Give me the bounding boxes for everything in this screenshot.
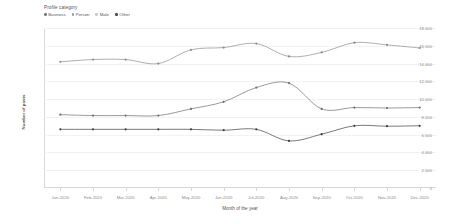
x-tick-mark bbox=[158, 188, 159, 191]
x-axis-title: Month of the year bbox=[44, 206, 436, 211]
data-point[interactable] bbox=[386, 44, 388, 46]
data-point[interactable] bbox=[353, 42, 355, 44]
legend-title: Profile category bbox=[44, 5, 130, 10]
data-point[interactable] bbox=[125, 58, 127, 60]
x-tick-label: Aug-2020 bbox=[280, 195, 298, 200]
legend-swatch-male bbox=[95, 13, 98, 16]
legend-swatch-other bbox=[115, 13, 118, 16]
x-tick-label: Nov-2020 bbox=[378, 195, 396, 200]
data-point[interactable] bbox=[125, 128, 127, 130]
legend-label-other: Other bbox=[119, 12, 130, 17]
x-tick-label: Sep-2020 bbox=[313, 195, 331, 200]
data-point[interactable] bbox=[59, 114, 61, 116]
legend-label-business: Business bbox=[48, 12, 65, 17]
data-point[interactable] bbox=[190, 128, 192, 130]
data-point[interactable] bbox=[386, 125, 388, 127]
data-point[interactable] bbox=[255, 128, 257, 130]
data-point[interactable] bbox=[190, 49, 192, 51]
data-point[interactable] bbox=[419, 125, 421, 127]
data-point[interactable] bbox=[223, 46, 225, 48]
x-tick-mark bbox=[60, 188, 61, 191]
data-point[interactable] bbox=[223, 101, 225, 103]
x-tick-mark bbox=[322, 188, 323, 191]
data-point[interactable] bbox=[59, 128, 61, 130]
legend-items: Business Person Male Other bbox=[44, 12, 130, 17]
x-tick-label: Jan-2020 bbox=[52, 195, 69, 200]
data-point[interactable] bbox=[353, 106, 355, 108]
x-tick-mark bbox=[126, 188, 127, 191]
legend-item-person[interactable]: Person bbox=[72, 12, 90, 17]
data-point[interactable] bbox=[321, 133, 323, 135]
data-point[interactable] bbox=[92, 128, 94, 130]
x-tick-label: Feb-2020 bbox=[84, 195, 102, 200]
data-point[interactable] bbox=[321, 108, 323, 110]
data-point[interactable] bbox=[288, 140, 290, 142]
legend-item-male[interactable]: Male bbox=[95, 12, 109, 17]
data-point[interactable] bbox=[321, 51, 323, 53]
data-point[interactable] bbox=[255, 42, 257, 44]
series-line-business bbox=[60, 82, 419, 116]
legend-label-male: Male bbox=[100, 12, 109, 17]
y-axis-title: Number of posts bbox=[21, 95, 26, 130]
legend-item-other[interactable]: Other bbox=[115, 12, 130, 17]
data-point[interactable] bbox=[223, 129, 225, 131]
series-line-person bbox=[60, 125, 419, 141]
data-point[interactable] bbox=[255, 86, 257, 88]
legend-item-business[interactable]: Business bbox=[44, 12, 66, 17]
x-tick-label: Dec-2020 bbox=[411, 195, 429, 200]
data-point[interactable] bbox=[157, 128, 159, 130]
legend-swatch-person bbox=[72, 13, 75, 16]
legend-label-person: Person bbox=[76, 12, 90, 17]
x-tick-label: Apr-2020 bbox=[150, 195, 167, 200]
x-tick-label: Oct-2020 bbox=[346, 195, 363, 200]
data-point[interactable] bbox=[419, 106, 421, 108]
x-tick-mark bbox=[420, 188, 421, 191]
plot-area: 18 00016 00014 00012 00010 0008 0006 000… bbox=[44, 28, 436, 188]
data-point[interactable] bbox=[190, 108, 192, 110]
data-point[interactable] bbox=[288, 55, 290, 57]
x-tick-mark bbox=[354, 188, 355, 191]
data-point[interactable] bbox=[288, 82, 290, 84]
x-tick-label: Jun-2020 bbox=[215, 195, 232, 200]
x-tick-mark bbox=[256, 188, 257, 191]
data-point[interactable] bbox=[157, 62, 159, 64]
chart-root: Profile category Business Person Male Ot… bbox=[0, 0, 474, 224]
data-point[interactable] bbox=[419, 47, 421, 49]
x-tick-mark bbox=[224, 188, 225, 191]
data-point[interactable] bbox=[59, 61, 61, 63]
series-lines bbox=[44, 28, 436, 188]
chart-legend: Profile category Business Person Male Ot… bbox=[44, 5, 130, 17]
data-point[interactable] bbox=[157, 114, 159, 116]
data-point[interactable] bbox=[125, 114, 127, 116]
x-tick-mark bbox=[289, 188, 290, 191]
x-tick-mark bbox=[191, 188, 192, 191]
x-tick-label: Jul-2020 bbox=[248, 195, 264, 200]
data-point[interactable] bbox=[353, 125, 355, 127]
x-tick-label: Mar-2020 bbox=[117, 195, 135, 200]
series-line-other bbox=[60, 42, 419, 64]
data-point[interactable] bbox=[92, 114, 94, 116]
x-tick-mark bbox=[93, 188, 94, 191]
x-tick-label: May-2020 bbox=[182, 195, 201, 200]
x-tick-mark bbox=[387, 188, 388, 191]
data-point[interactable] bbox=[386, 107, 388, 109]
legend-swatch-business bbox=[44, 13, 47, 16]
data-point[interactable] bbox=[92, 58, 94, 60]
